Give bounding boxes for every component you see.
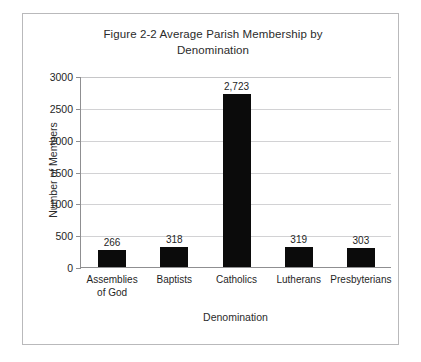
x-category-label: Lutherans (276, 273, 320, 286)
y-tick-label: 3000 (50, 71, 73, 83)
chart-title-text-1: Figure 2-2 Average Parish Membership by (63, 26, 363, 42)
category-label-line: Lutherans (276, 273, 320, 286)
bar (160, 247, 188, 267)
bar (347, 248, 375, 267)
y-tick-mark (76, 77, 81, 78)
category-label-line: Assemblies (87, 273, 138, 286)
x-category-label: Presbyterians (330, 273, 391, 286)
x-category-label: Assembliesof God (87, 273, 138, 299)
x-category-label: Baptists (157, 273, 193, 286)
y-tick-label: 2000 (50, 135, 73, 147)
y-tick-label: 1500 (50, 167, 73, 179)
y-tick-label: 2500 (50, 103, 73, 115)
y-tick-mark (76, 173, 81, 174)
chart-screenshot: Figure 2-2 Average Parish Membership by … (0, 0, 421, 362)
bar (98, 250, 126, 267)
chart-title-text-2: Denomination (63, 42, 363, 58)
category-label-line: of God (87, 286, 138, 299)
y-tick-label: 0 (67, 262, 73, 274)
y-tick-mark (76, 141, 81, 142)
chart-title: Figure 2-2 Average Parish Membership by … (63, 26, 363, 58)
y-tick-mark (76, 268, 81, 269)
y-tick-mark (76, 236, 81, 237)
plot-area: 050010001500200025003000266Assembliesof … (80, 77, 391, 268)
bar-value-label: 266 (104, 237, 121, 248)
figure-frame: Figure 2-2 Average Parish Membership by … (22, 13, 399, 345)
bar-value-label: 319 (290, 234, 307, 245)
category-label-line: Catholics (216, 273, 257, 286)
category-label-line: Baptists (157, 273, 193, 286)
y-tick-mark (76, 204, 81, 205)
category-label-line: Presbyterians (330, 273, 391, 286)
y-tick-mark (76, 109, 81, 110)
y-tick-label: 500 (55, 230, 73, 242)
bar (285, 247, 313, 267)
x-axis-title: Denomination (80, 311, 391, 323)
bar-value-label: 318 (166, 234, 183, 245)
y-tick-label: 1000 (50, 198, 73, 210)
gridline (81, 77, 391, 78)
bar (223, 94, 251, 267)
bar-value-label: 2,723 (224, 81, 249, 92)
x-category-label: Catholics (216, 273, 257, 286)
bar-value-label: 303 (353, 235, 370, 246)
